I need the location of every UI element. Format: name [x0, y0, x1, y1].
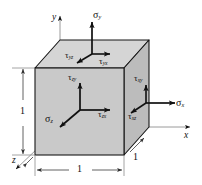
tau-yx-label: τyx	[99, 57, 108, 67]
depth-dimension-label: 1	[133, 152, 138, 162]
tau-zy-label: τzy	[68, 73, 76, 83]
tau-zx-label: τzx	[98, 110, 106, 120]
sigma-x-label: σx	[176, 98, 184, 109]
tau-xy-label: τxy	[134, 74, 143, 84]
z-axis-label: z	[12, 156, 16, 166]
sigma-z-label: σz	[45, 114, 53, 125]
cube-body	[35, 40, 149, 155]
tau-yz-label: τyz	[65, 51, 73, 61]
height-dimension-label: 1	[20, 106, 25, 116]
x-axis-label: x	[184, 131, 188, 141]
width-dimension-label: 1	[77, 164, 82, 174]
tau-xz-label: τxz	[128, 112, 136, 122]
sigma-y-label: σy	[93, 10, 101, 21]
y-axis-label: y	[52, 13, 56, 23]
stress-cube-figure	[0, 0, 202, 185]
